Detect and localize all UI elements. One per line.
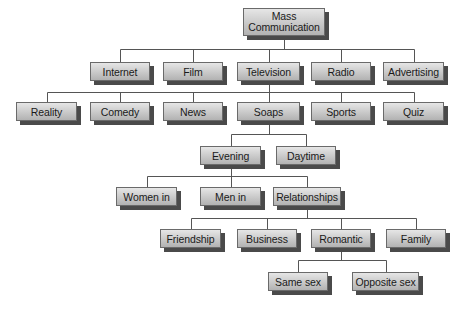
node-men-in: Men in — [200, 187, 261, 206]
node-sports: Sports — [311, 102, 371, 121]
node-news: News — [163, 102, 223, 121]
node-television: Television — [237, 62, 300, 81]
node-mass-communication: Mass Communication — [243, 8, 325, 36]
node-women-in: Women in — [116, 187, 177, 206]
node-radio: Radio — [311, 62, 371, 81]
node-label-line-2: Communication — [248, 22, 320, 33]
node-same-sex: Same sex — [268, 272, 328, 291]
node-soaps: Soaps — [237, 102, 300, 121]
node-romantic: Romantic — [311, 229, 371, 248]
node-reality: Reality — [16, 102, 77, 121]
node-daytime: Daytime — [276, 146, 336, 165]
mass-communication-tree-diagram: Mass Communication Internet Film Televis… — [0, 0, 464, 309]
node-relationships: Relationships — [273, 187, 341, 206]
node-family: Family — [386, 229, 446, 248]
node-business: Business — [237, 229, 297, 248]
node-friendship: Friendship — [160, 229, 221, 248]
node-advertising: Advertising — [383, 62, 444, 81]
node-evening: Evening — [200, 146, 261, 165]
node-quiz: Quiz — [383, 102, 444, 121]
node-opposite-sex: Opposite sex — [352, 272, 419, 291]
node-film: Film — [163, 62, 223, 81]
node-internet: Internet — [90, 62, 150, 81]
node-comedy: Comedy — [90, 102, 150, 121]
